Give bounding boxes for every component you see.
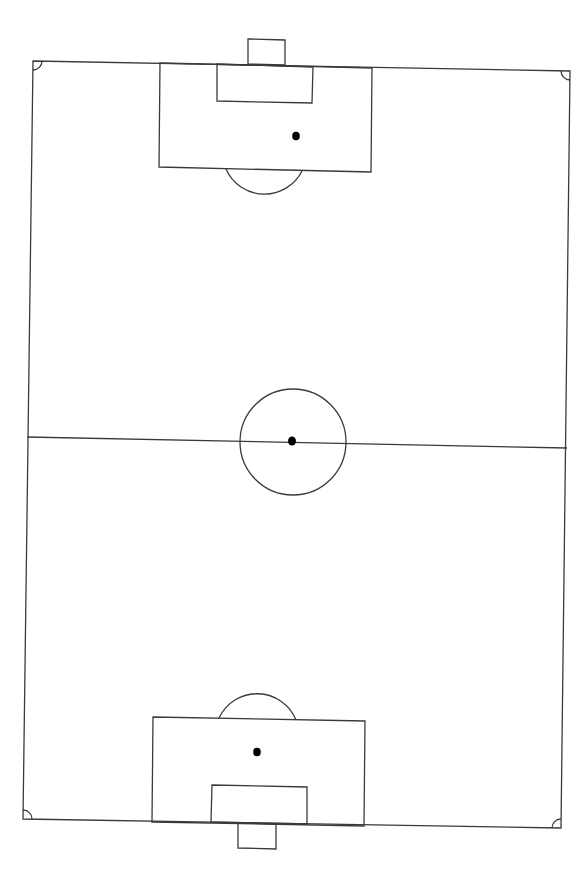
pitch-boundary <box>23 61 570 828</box>
top-penalty-area <box>159 63 372 172</box>
bottom-penalty-spot <box>253 748 261 757</box>
corner-arc-top-left <box>33 61 42 70</box>
soccer-pitch <box>0 0 587 876</box>
corner-arc-top-right <box>561 71 570 80</box>
top-goal-area <box>217 64 313 103</box>
bottom-goal <box>238 823 276 849</box>
centre-spot <box>288 437 296 446</box>
bottom-penalty-area <box>152 717 365 826</box>
bottom-goal-area <box>211 785 307 824</box>
halfway-line <box>27 437 567 448</box>
top-goal <box>248 39 285 65</box>
top-penalty-spot <box>292 132 300 141</box>
corner-arc-bottom-left <box>23 810 32 819</box>
bottom-penalty-arc <box>219 694 296 720</box>
top-penalty-arc <box>226 169 302 194</box>
corner-arc-bottom-right <box>552 819 561 828</box>
